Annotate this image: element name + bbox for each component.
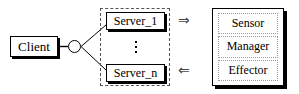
server-box-first[interactable]: Server_1 — [106, 12, 165, 30]
panel-cell-effector[interactable]: Effector — [218, 60, 278, 81]
panel-cell-label: Sensor — [232, 16, 265, 31]
panel-cell-label: Effector — [228, 63, 267, 78]
panel-cell-manager[interactable]: Manager — [218, 36, 278, 57]
ellipsis-dot — [135, 51, 137, 53]
vertical-ellipsis-icon — [106, 34, 165, 60]
ellipsis-dot — [135, 46, 137, 48]
server-label: Server_1 — [114, 14, 157, 29]
panel-cell-label: Manager — [227, 39, 270, 54]
ellipsis-dot — [135, 41, 137, 43]
server-box-last[interactable]: Server_n — [106, 64, 165, 82]
server-label: Server_n — [114, 66, 157, 81]
connector-junction-circle[interactable] — [68, 40, 81, 53]
double-arrow-left-icon: ⇐ — [178, 63, 190, 77]
manager-panel: Sensor Manager Effector — [212, 8, 284, 86]
panel-cell-sensor[interactable]: Sensor — [218, 13, 278, 34]
double-arrow-right-icon: ⇒ — [178, 13, 190, 27]
architecture-diagram: Client Server_1 Server_n ⇒ ⇐ Sensor Mana… — [0, 0, 299, 94]
